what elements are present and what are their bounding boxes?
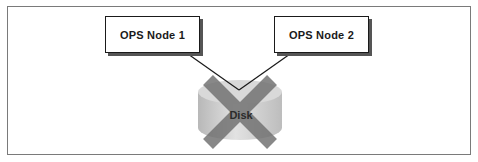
disk-label: Disk xyxy=(226,109,256,121)
ops-node-1-label: OPS Node 1 xyxy=(120,29,185,41)
diagram-graphics xyxy=(0,0,478,162)
ops-node-2-box: OPS Node 2 xyxy=(274,16,369,53)
ops-node-2-label: OPS Node 2 xyxy=(289,29,354,41)
ops-node-1-box: OPS Node 1 xyxy=(105,16,200,53)
